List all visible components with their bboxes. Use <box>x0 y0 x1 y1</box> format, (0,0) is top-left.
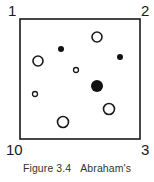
circle-markers <box>33 32 124 128</box>
filled-circle-2 <box>117 54 123 60</box>
figure-caption: Figure 3.4Abraham's <box>0 162 154 174</box>
filled-circle-5 <box>91 80 103 92</box>
corner-label-top-left: 1 <box>8 3 16 18</box>
filled-circle-1 <box>58 46 64 52</box>
caption-label: Figure 3.4 <box>23 162 71 174</box>
open-circle-0 <box>92 32 102 42</box>
open-circle-8 <box>58 117 69 128</box>
open-circle-3 <box>33 56 43 66</box>
open-circle-4 <box>74 68 79 73</box>
diagram-canvas <box>0 0 154 182</box>
open-circle-6 <box>33 92 38 97</box>
caption-title: Abraham's <box>80 162 131 174</box>
boundary-square <box>20 19 140 139</box>
figure: 1 2 10 3 Figure 3.4Abraham's <box>0 0 154 182</box>
corner-label-bottom-left: 10 <box>6 142 23 157</box>
corner-label-bottom-right: 3 <box>141 142 149 157</box>
corner-label-top-right: 2 <box>141 3 149 18</box>
open-circle-7 <box>104 104 115 115</box>
